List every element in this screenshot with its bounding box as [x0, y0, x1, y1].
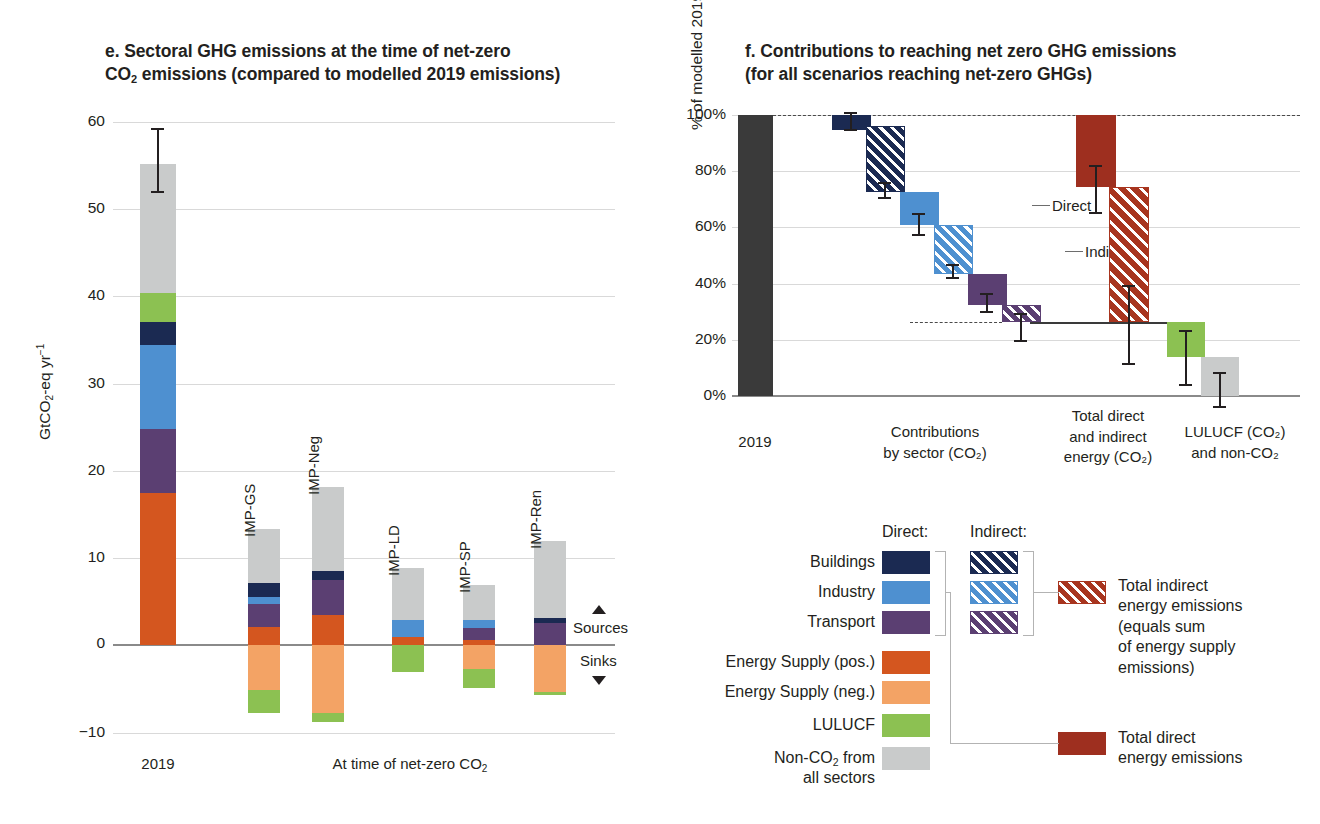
legend-swatch-transport-direct	[882, 611, 930, 634]
legend-swatch-lulucf	[882, 714, 930, 737]
error-bar-industry-direct	[918, 213, 920, 235]
sinks-arrow-icon	[592, 676, 606, 685]
gridline-60	[113, 122, 615, 123]
gridline-minus10	[113, 733, 615, 734]
sources-label: Sources	[573, 619, 628, 636]
segment-industry	[463, 620, 495, 628]
y-tick-0: 0	[55, 634, 105, 652]
segment-industry	[248, 597, 280, 604]
segment-non-co2	[248, 529, 280, 583]
error-bar-buildings-direct	[850, 112, 852, 130]
legend-connector-direct-h1	[945, 592, 951, 593]
bar-label-imp-sp: IMP-SP	[456, 541, 473, 593]
y-tick-0: 0%	[660, 386, 726, 404]
gridline-40	[732, 284, 1300, 285]
legend-swatch-industry-direct	[882, 581, 930, 604]
gridline-50	[113, 209, 615, 210]
legend-swatch-buildings-indirect	[970, 551, 1018, 574]
segment-energy-pos	[140, 493, 176, 645]
legend-label-non-co2-line2: all sectors	[670, 768, 875, 788]
legend-label-energy-supply-neg: Energy Supply (neg.)	[670, 682, 875, 702]
x-group-label-lulucf-and-non-co2: LULUCF (CO₂) and non-CO₂	[1160, 422, 1310, 463]
error-bar-buildings-indirect	[884, 182, 886, 198]
legend-connector-direct-v	[950, 592, 951, 744]
error-bar-non-co2	[1219, 372, 1221, 407]
error-cap-top-buildings-indirect	[878, 182, 891, 184]
legend-bracket-indirect	[1023, 551, 1034, 636]
bar-label-imp-neg: IMP-Neg	[305, 436, 322, 495]
legend-label-non-co2: Non-CO2 from all sectors	[670, 748, 875, 789]
error-cap-bottom-lulucf-co2	[1179, 384, 1192, 386]
error-bar-total-indirect-energy	[1128, 285, 1130, 364]
gridline-40	[113, 296, 615, 297]
gridline-30	[113, 384, 615, 385]
annotation-direct: Direct	[1052, 197, 1091, 214]
segment-lulucf-neg	[534, 692, 566, 695]
legend-connector-direct-h2	[950, 743, 1059, 744]
legend-swatch-transport-indirect	[970, 611, 1018, 634]
segment-lulucf-neg	[392, 645, 424, 672]
segment-lulucf-neg	[248, 690, 280, 713]
legend-swatch-buildings-direct	[882, 551, 930, 574]
segment-transport	[463, 628, 495, 640]
y-tick-20: 20	[55, 461, 105, 479]
y-tick-50: 50	[55, 199, 105, 217]
segment-energy-neg	[463, 645, 495, 669]
segment-transport	[534, 623, 566, 645]
segment-lulucf-neg	[463, 669, 495, 688]
segment-buildings	[248, 583, 280, 597]
segment-transport	[312, 580, 344, 615]
gridline-20	[113, 471, 615, 472]
legend-label-lulucf: LULUCF	[670, 715, 875, 735]
segment-buildings	[140, 322, 176, 345]
error-bar-transport-indirect	[1020, 313, 1022, 342]
segment-non-co2	[312, 487, 344, 571]
error-bar-lulucf-co2	[1185, 330, 1187, 385]
legend-swatch-energy-supply-neg	[882, 681, 930, 704]
error-cap-top-transport-indirect	[1014, 313, 1027, 315]
x-group-label-2019: 2019	[118, 755, 198, 772]
segment-energy-neg	[248, 645, 280, 690]
legend-bracket-direct	[935, 551, 946, 636]
gridline-60	[732, 227, 1300, 228]
segment-energy-pos	[248, 627, 280, 645]
error-bar-2019	[157, 128, 159, 192]
error-cap-bottom-total-direct-energy	[1089, 212, 1102, 214]
segment-energy-neg	[534, 645, 566, 692]
figure-legend: Direct: Indirect: Buildings Industry Tra…	[660, 500, 1320, 824]
segment-transport	[140, 429, 176, 493]
error-cap-bottom-non-co2	[1213, 406, 1226, 408]
y-tick-10: 10	[55, 548, 105, 566]
segment-transport	[248, 604, 280, 627]
y-tick-minus10: −10	[45, 723, 105, 741]
connector-line-26pct	[1030, 322, 1167, 324]
segment-energy-neg	[312, 645, 344, 713]
sinks-label: Sinks	[580, 652, 617, 669]
legend-label-transport: Transport	[780, 612, 875, 632]
error-cap-bottom-industry-indirect	[946, 277, 959, 279]
legend-connector-indirect-h	[1033, 592, 1059, 593]
error-cap-top-non-co2	[1213, 372, 1226, 374]
error-cap-bottom-buildings-direct	[844, 129, 857, 131]
y-tick-100: 100%	[660, 105, 726, 123]
annotation-leader-direct	[1032, 205, 1050, 206]
segment-energy-pos	[312, 615, 344, 645]
legend-label-non-co2-line1: Non-CO2 from	[670, 748, 875, 768]
segment-buildings	[312, 571, 344, 580]
bar-2019-total	[738, 115, 773, 396]
segment-lulucf-neg	[312, 713, 344, 722]
panel-e-plot-area: 60 50 40 30 20 10 0 −10 IMP	[0, 0, 660, 824]
panel-e-sectoral-ghg-emissions: e. Sectoral GHG emissions at the time of…	[0, 0, 660, 824]
error-cap-bottom-transport-direct	[980, 311, 993, 313]
error-bar-transport-direct	[986, 293, 988, 312]
error-cap-top-total-indirect-energy	[1122, 285, 1135, 287]
segment-industry	[392, 620, 424, 637]
error-bar-total-direct-energy	[1095, 165, 1097, 213]
gridline-80	[732, 171, 1300, 172]
legend-label-total-indirect-energy: Total indirect energy emissions (equals …	[1118, 576, 1318, 678]
legend-head-direct: Direct:	[882, 523, 928, 541]
legend-swatch-non-co2	[882, 747, 930, 770]
x-group-label-netzero: At time of net-zero CO2	[280, 755, 540, 772]
legend-swatch-total-indirect-energy	[1058, 581, 1106, 604]
error-cap-bottom-industry-direct	[912, 234, 925, 236]
